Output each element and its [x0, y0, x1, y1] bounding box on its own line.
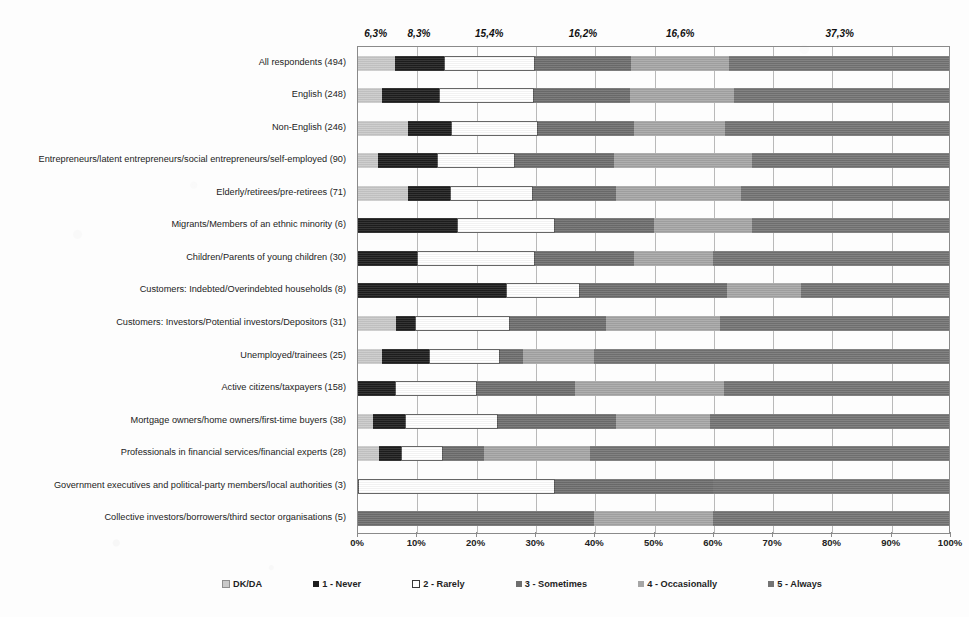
- value-annotations: 6,3%8,3%15,4%16,2%16,6%37,3%: [357, 28, 950, 46]
- category-label: Entrepreneurs/latent entrepreneurs/socia…: [0, 144, 346, 177]
- stacked-bar: [358, 479, 949, 494]
- category-label: Customers: Investors/Potential investors…: [0, 306, 346, 339]
- legend-item[interactable]: 4 - Occasionally: [638, 579, 717, 589]
- legend-item[interactable]: 3 - Sometimes: [516, 579, 587, 589]
- legend-swatch-icon: [516, 581, 522, 587]
- bar-segment: [734, 88, 949, 103]
- bar-segment: [358, 446, 379, 461]
- bar-segment: [710, 414, 949, 429]
- legend-label: 3 - Sometimes: [525, 579, 587, 589]
- bar-segment: [382, 88, 439, 103]
- table-row: [358, 340, 949, 373]
- bar-segment: [654, 218, 753, 233]
- bar-segment: [534, 88, 629, 103]
- stacked-bar: [358, 56, 949, 71]
- category-label: Collective investors/borrowers/third sec…: [0, 501, 346, 534]
- table-row: [358, 275, 949, 308]
- bar-segment: [358, 251, 417, 266]
- bar-segment: [358, 121, 408, 136]
- bar-segment: [720, 316, 949, 331]
- legend-swatch-icon: [638, 581, 644, 587]
- bar-segment: [444, 56, 535, 71]
- legend-item[interactable]: 1 - Never: [313, 579, 361, 589]
- x-axis-tick-label: 10%: [407, 537, 426, 548]
- data-value-label: 37,3%: [826, 28, 854, 39]
- stacked-bar: [358, 381, 949, 396]
- stacked-bar: [358, 186, 949, 201]
- bar-segment: [437, 153, 516, 168]
- stacked-bar: [358, 283, 949, 298]
- category-label: Elderly/retirees/pre-retirees (71): [0, 176, 346, 209]
- bar-segment: [533, 186, 616, 201]
- bar-segment: [616, 414, 709, 429]
- table-row: [358, 405, 949, 438]
- bar-segment: [535, 251, 634, 266]
- bar-segment: [580, 283, 728, 298]
- bar-segment: [417, 251, 535, 266]
- bar-segment: [630, 88, 735, 103]
- bar-segment: [729, 56, 949, 71]
- bar-segment: [634, 251, 713, 266]
- bar-segment: [415, 316, 510, 331]
- category-label: Mortgage owners/home owners/first-time b…: [0, 404, 346, 437]
- bar-segment: [498, 414, 616, 429]
- x-axis-tick-label: 40%: [585, 537, 604, 548]
- table-row: [358, 470, 949, 503]
- stacked-bar: [358, 153, 949, 168]
- bar-segment: [382, 349, 429, 364]
- data-value-label: 6,3%: [364, 28, 387, 39]
- bar-segment: [358, 186, 408, 201]
- legend-swatch-icon: [768, 581, 774, 587]
- stacked-bar: [358, 511, 949, 526]
- bar-segment: [429, 349, 500, 364]
- table-row: [358, 437, 949, 470]
- table-row: [358, 177, 949, 210]
- bar-segment: [555, 218, 654, 233]
- bar-segment: [358, 153, 378, 168]
- stacked-bar-rows: [358, 47, 949, 533]
- stacked-bar: [358, 251, 949, 266]
- bar-segment: [555, 479, 713, 494]
- bar-segment: [713, 251, 949, 266]
- category-label: Unemployed/trainees (25): [0, 339, 346, 372]
- bar-segment: [538, 121, 634, 136]
- chart-figure: 6,3%8,3%15,4%16,2%16,6%37,3% All respond…: [0, 0, 969, 617]
- stacked-bar: [358, 121, 949, 136]
- legend-label: DK/DA: [233, 579, 262, 589]
- bar-segment: [443, 446, 485, 461]
- legend-item[interactable]: 5 - Always: [768, 579, 822, 589]
- stacked-bar: [358, 218, 949, 233]
- legend-item[interactable]: DK/DA: [222, 579, 262, 589]
- data-value-label: 8,3%: [408, 28, 431, 39]
- category-label: All respondents (494): [0, 46, 346, 79]
- legend-item[interactable]: 2 - Rarely: [412, 579, 464, 589]
- bar-segment: [500, 349, 524, 364]
- bar-segment: [713, 479, 949, 494]
- bar-segment: [450, 186, 533, 201]
- legend-swatch-icon: [222, 580, 230, 588]
- table-row: [358, 112, 949, 145]
- bar-segment: [727, 283, 801, 298]
- stacked-bar: [358, 88, 949, 103]
- x-axis-tick-label: 30%: [525, 537, 544, 548]
- table-row: [358, 372, 949, 405]
- category-label: Active citizens/taxpayers (158): [0, 371, 346, 404]
- category-label: Children/Parents of young children (30): [0, 241, 346, 274]
- bar-segment: [535, 56, 631, 71]
- category-label: Non-English (246): [0, 111, 346, 144]
- bar-segment: [575, 381, 725, 396]
- bar-segment: [631, 56, 729, 71]
- bar-segment: [401, 446, 443, 461]
- category-label: Government executives and political-part…: [0, 469, 346, 502]
- data-value-label: 16,2%: [569, 28, 597, 39]
- bar-segment: [477, 381, 575, 396]
- bar-segment: [752, 218, 949, 233]
- table-row: [358, 145, 949, 178]
- chart-legend: DK/DA1 - Never2 - Rarely3 - Sometimes4 -…: [222, 574, 822, 594]
- table-row: [358, 307, 949, 340]
- bar-segment: [358, 218, 457, 233]
- category-axis-labels: All respondents (494)English (248)Non-En…: [0, 46, 352, 534]
- bar-segment: [405, 414, 498, 429]
- bar-segment: [510, 316, 605, 331]
- bar-segment: [725, 121, 949, 136]
